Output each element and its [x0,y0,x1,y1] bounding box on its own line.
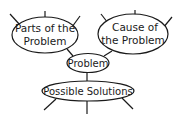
cause-label-line1: Cause of [112,21,158,33]
parts-label-line1: Parts of the [15,22,75,34]
solutions-label: Possible Solutions [43,86,132,97]
node-problem: Problem [67,54,109,73]
parts-label-line2: Problem [24,35,67,47]
concept-map: Parts of the Problem Cause of the Proble… [0,0,183,123]
node-cause-of-the-problem: Cause of the Problem [98,14,168,54]
node-parts-of-the-problem: Parts of the Problem [12,17,78,53]
node-possible-solutions: Possible Solutions [42,81,134,101]
cause-label-line2: the Problem [101,34,165,46]
problem-label: Problem [68,58,109,69]
